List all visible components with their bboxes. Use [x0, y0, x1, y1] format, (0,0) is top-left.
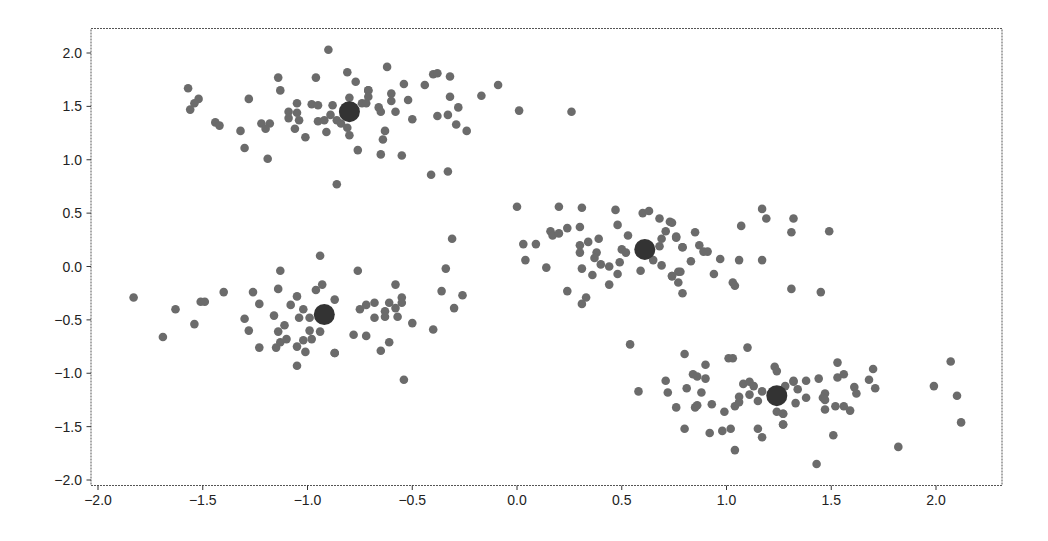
data-point [576, 223, 585, 232]
data-point [588, 271, 597, 280]
data-point [245, 95, 254, 104]
data-point [563, 287, 572, 296]
plot-area [91, 29, 1002, 486]
data-point [379, 135, 388, 144]
data-point [282, 335, 291, 344]
data-point [597, 260, 606, 269]
data-point [299, 305, 308, 314]
data-point [354, 267, 363, 276]
data-point [245, 326, 254, 335]
data-point [578, 204, 587, 213]
data-point [398, 299, 407, 308]
y-axis: 2.01.51.00.50.0−0.5−1.0−1.5−2.0 [54, 45, 91, 488]
data-point [567, 107, 576, 116]
data-point [351, 78, 360, 87]
data-point [957, 418, 966, 427]
data-point [274, 73, 283, 82]
data-point [450, 304, 459, 313]
data-point [263, 154, 272, 163]
data-point [791, 399, 800, 408]
data-point [249, 288, 258, 297]
data-point [324, 46, 333, 55]
data-point [762, 214, 771, 223]
x-tick-label: −0.5 [398, 492, 426, 508]
data-point [708, 400, 717, 409]
x-tick-label: −2.0 [84, 492, 112, 508]
data-point [655, 214, 664, 223]
data-point [408, 115, 417, 124]
data-point [758, 433, 767, 442]
data-point [240, 144, 249, 153]
data-point [812, 460, 821, 469]
data-point [349, 331, 358, 340]
data-point [345, 94, 354, 103]
data-point [697, 388, 706, 397]
data-point [452, 120, 461, 129]
centroid-marker [314, 304, 335, 325]
data-point [444, 167, 453, 176]
data-point [433, 112, 442, 121]
x-tick-label: 0.5 [612, 492, 632, 508]
data-point [293, 109, 302, 118]
data-point [186, 105, 195, 114]
data-point [270, 311, 279, 320]
centroid-marker [634, 239, 655, 260]
data-point [729, 354, 738, 363]
data-point [831, 402, 840, 411]
data-point [316, 327, 325, 336]
data-point [716, 255, 725, 264]
data-point [391, 107, 400, 116]
data-point [354, 146, 363, 155]
data-point [814, 374, 823, 383]
data-point [846, 406, 855, 415]
centroid-marker [766, 385, 787, 406]
data-point [291, 125, 300, 134]
x-tick-label: 0.0 [507, 492, 527, 508]
data-point [462, 127, 471, 136]
data-point [295, 313, 304, 322]
data-point [312, 73, 321, 82]
x-tick-label: −1.5 [189, 492, 217, 508]
data-point [672, 403, 681, 412]
data-point [305, 313, 314, 322]
data-point [385, 338, 394, 347]
data-point [605, 280, 614, 289]
data-point [377, 150, 386, 159]
data-point [129, 293, 138, 302]
data-point [701, 374, 710, 383]
data-point [345, 131, 354, 140]
data-point [718, 427, 727, 436]
data-point [789, 378, 798, 387]
data-point [779, 410, 788, 419]
data-point [280, 321, 289, 330]
data-point [442, 264, 451, 273]
data-point [930, 382, 939, 391]
data-point [576, 248, 585, 257]
data-point [330, 295, 339, 304]
data-point [274, 285, 283, 294]
data-point [576, 241, 585, 250]
data-point [293, 342, 302, 351]
data-point [829, 431, 838, 440]
data-point [377, 107, 386, 116]
data-point [731, 281, 740, 290]
data-point [408, 319, 417, 328]
data-point [789, 214, 798, 223]
data-point [626, 340, 635, 349]
data-point [655, 242, 664, 251]
data-point [787, 285, 796, 294]
data-point [705, 429, 714, 438]
data-point [720, 407, 729, 416]
data-point [710, 270, 719, 279]
data-point [687, 257, 696, 266]
data-point [953, 391, 962, 400]
data-point [276, 267, 285, 276]
data-point [840, 370, 849, 379]
data-point [171, 305, 180, 314]
data-point [758, 205, 767, 214]
data-point [555, 229, 564, 238]
data-point [657, 234, 666, 243]
data-point [661, 376, 670, 385]
data-point [458, 291, 467, 300]
data-point [381, 312, 390, 321]
